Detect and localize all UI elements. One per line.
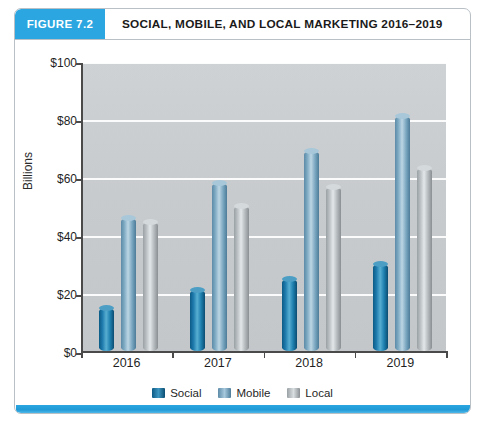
bar-social-2019 xyxy=(373,264,388,351)
bar-cap xyxy=(417,165,432,171)
bar-local-2018 xyxy=(326,187,341,351)
bar-cap xyxy=(143,219,158,225)
y-tick-label: $60 xyxy=(19,172,77,186)
x-tick-label-2017: 2017 xyxy=(204,356,232,370)
bar-local-2017 xyxy=(234,206,249,351)
bar-cap xyxy=(326,184,341,190)
x-tick-mark xyxy=(172,351,174,358)
figure-card: FIGURE 7.2 SOCIAL, MOBILE, AND LOCAL MAR… xyxy=(14,8,471,414)
bar-group-2018 xyxy=(266,63,357,351)
x-tick-label-2018: 2018 xyxy=(295,356,323,370)
legend-swatch-mobile-icon xyxy=(218,388,231,398)
y-tick-label: $0 xyxy=(19,346,77,360)
bar-group-2019 xyxy=(357,63,448,351)
bar-mobile-2019 xyxy=(395,116,410,351)
legend-swatch-social-icon xyxy=(152,388,165,398)
plot-area xyxy=(81,63,446,353)
bar-social-2018 xyxy=(282,279,297,352)
figure-title: SOCIAL, MOBILE, AND LOCAL MARKETING 2016… xyxy=(105,9,470,39)
legend-label: Local xyxy=(305,387,333,399)
bar-cap xyxy=(282,276,297,282)
legend-swatch-local-icon xyxy=(287,388,300,398)
x-tick-label-2019: 2019 xyxy=(386,356,414,370)
bar-social-2017 xyxy=(190,290,205,351)
bar-mobile-2016 xyxy=(121,218,136,351)
legend-label: Mobile xyxy=(236,387,270,399)
x-tick-mark xyxy=(81,351,83,358)
x-tick-mark xyxy=(264,351,266,358)
bar-group-2017 xyxy=(174,63,265,351)
y-tick-label: $20 xyxy=(19,288,77,302)
legend-item-social[interactable]: Social xyxy=(152,387,201,399)
bar-social-2016 xyxy=(99,308,114,352)
legend-item-mobile[interactable]: Mobile xyxy=(218,387,270,399)
y-tick-label: $40 xyxy=(19,230,77,244)
x-tick-label-2016: 2016 xyxy=(113,356,141,370)
bar-cap xyxy=(190,287,205,293)
y-axis-ticks: $0$20$40$60$80$100 xyxy=(15,63,77,351)
legend-item-local[interactable]: Local xyxy=(287,387,333,399)
bar-cap xyxy=(121,215,136,221)
bar-local-2016 xyxy=(143,222,158,351)
bottom-accent-rule xyxy=(16,405,471,413)
x-tick-mark xyxy=(446,351,448,358)
y-tick-label: $100 xyxy=(19,56,77,70)
bar-cap xyxy=(99,305,114,311)
bar-mobile-2017 xyxy=(212,183,227,351)
x-tick-mark xyxy=(355,351,357,358)
bar-cap xyxy=(304,148,319,154)
figure-number-badge: FIGURE 7.2 xyxy=(15,9,105,39)
y-tick-label: $80 xyxy=(19,114,77,128)
bar-mobile-2018 xyxy=(304,151,319,351)
figure-header: FIGURE 7.2 SOCIAL, MOBILE, AND LOCAL MAR… xyxy=(15,9,470,40)
bar-group-2016 xyxy=(83,63,174,351)
bar-cap xyxy=(395,113,410,119)
chart-legend: SocialMobileLocal xyxy=(15,387,470,399)
legend-label: Social xyxy=(170,387,201,399)
bar-cap xyxy=(373,261,388,267)
chart-body: Billions $0$20$40$60$80$100 201620172018… xyxy=(15,40,470,389)
bar-local-2019 xyxy=(417,168,432,351)
bar-cap xyxy=(212,180,227,186)
bar-cap xyxy=(234,203,249,209)
